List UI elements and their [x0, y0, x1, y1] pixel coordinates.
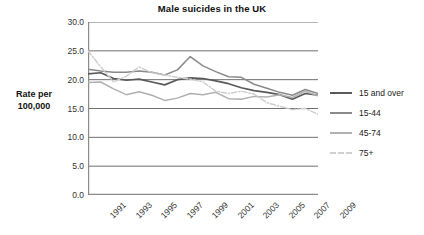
legend-label: 45-74 — [359, 128, 381, 138]
legend-swatch-icon — [330, 132, 352, 134]
legend-item-45-74[interactable]: 45-74 — [330, 123, 422, 143]
series-line-15-44 — [88, 57, 318, 96]
legend-item-15-44[interactable]: 15-44 — [330, 103, 422, 123]
y-tick-label: 20.0 — [52, 75, 84, 85]
legend-item-15-and-over[interactable]: 15 and over — [330, 83, 422, 103]
legend-swatch-icon — [330, 112, 352, 114]
legend-swatch-icon — [330, 152, 352, 154]
x-tick-label: 1993 — [133, 200, 153, 220]
x-tick-label: 2009 — [338, 200, 358, 220]
x-tick-label: 2005 — [286, 200, 306, 220]
chart-legend: 15 and over15-4445-7475+ — [330, 83, 422, 163]
plot-area — [88, 22, 318, 195]
chart-title: Male suicides in the UK — [0, 3, 424, 14]
x-tick-label: 1995 — [159, 200, 179, 220]
legend-swatch-icon — [330, 92, 352, 94]
x-tick-label: 2001 — [235, 200, 255, 220]
y-tick-label: 0.0 — [52, 190, 84, 200]
y-tick-label: 30.0 — [52, 17, 84, 27]
legend-item-75-[interactable]: 75+ — [330, 143, 422, 163]
line-chart: Male suicides in the UK Rate per 100,000… — [0, 0, 424, 235]
y-tick-label: 10.0 — [52, 132, 84, 142]
x-tick-label: 1999 — [210, 200, 230, 220]
x-tick-label: 2007 — [312, 200, 332, 220]
y-tick-label: 15.0 — [52, 104, 84, 114]
series-line-45-74 — [88, 82, 318, 100]
y-tick-label: 25.0 — [52, 46, 84, 56]
y-tick-label: 5.0 — [52, 161, 84, 171]
series-line-75- — [88, 51, 318, 114]
legend-label: 75+ — [359, 148, 373, 158]
plot-svg — [88, 22, 318, 195]
x-tick-label: 2003 — [261, 200, 281, 220]
legend-label: 15-44 — [359, 108, 381, 118]
y-axis-tick-labels: 30.025.020.015.010.05.00.0 — [50, 22, 84, 195]
x-tick-label: 1997 — [184, 200, 204, 220]
x-axis-tick-labels: 1991199319951997199920012003200520072009 — [88, 198, 328, 235]
x-tick-label: 1991 — [108, 200, 128, 220]
legend-label: 15 and over — [359, 88, 404, 98]
